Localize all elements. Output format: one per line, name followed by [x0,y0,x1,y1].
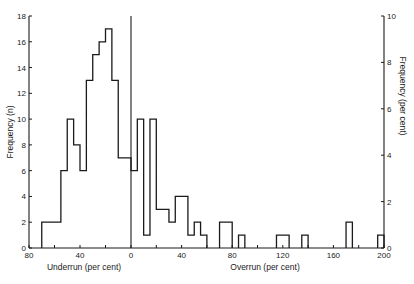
x-tick-label: 200 [377,251,391,260]
x-tick-label: 160 [327,251,341,260]
y-tick-label: 16 [17,38,26,47]
y-tick-label: 6 [22,167,27,176]
y-tick-label: 10 [17,115,26,124]
left-y-axis-label: Frequency (n) [5,105,15,158]
y-tick-label: 14 [17,64,26,73]
y-tick-right-label: 8 [387,58,392,67]
x-tick-label: 0 [129,251,134,260]
y-tick-right-label: 2 [387,198,392,207]
y-tick-label: 12 [17,89,26,98]
x-ticks: 804004080120160200 [25,245,392,260]
x-tick-label: 40 [76,251,85,260]
y-tick-label: 8 [22,141,27,150]
y-tick-label: 2 [22,218,27,227]
right-y-ticks: 0246810 [381,12,396,253]
right-y-axis-label: Frequency (per cent) [398,57,408,136]
y-tick-right-label: 6 [387,105,392,114]
y-tick-right-label: 10 [387,12,396,21]
overrun-axis-label: Overrun (per cent) [230,262,300,272]
x-tick-label: 120 [276,251,290,260]
left-y-ticks: 024681012141618 [17,12,32,253]
axes [29,16,384,248]
x-tick-label: 80 [25,251,34,260]
histogram-outline [42,29,384,248]
x-tick-label: 40 [177,251,186,260]
underrun-axis-label: Underrun (per cent) [47,262,121,272]
x-tick-label: 80 [228,251,237,260]
y-tick-right-label: 4 [387,151,392,160]
y-tick-label: 4 [22,192,27,201]
y-tick-label: 18 [17,12,26,21]
histogram-chart: 024681012141618 0246810 8040040801201602… [0,0,414,284]
